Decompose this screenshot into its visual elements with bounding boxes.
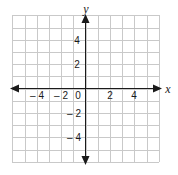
x-axis-right-arrow-icon xyxy=(153,85,162,93)
x-tick-label-4: 4 xyxy=(131,90,137,101)
x-tick-label-neg4: – 4 xyxy=(30,90,44,101)
y-tick-label-2: 2 xyxy=(74,59,80,70)
y-tick-label-4: 4 xyxy=(74,35,80,46)
y-axis-label: y xyxy=(82,2,89,16)
coordinate-plane-figure: x y 0 – 4 – 2 2 4 4 2 – 2 – 4 xyxy=(0,0,178,175)
x-tick-label-2: 2 xyxy=(107,90,113,101)
x-tick-label-neg2: – 2 xyxy=(54,90,68,101)
x-axis-left-arrow-icon xyxy=(10,85,19,93)
origin-tick-label: 0 xyxy=(75,90,81,101)
x-axis-label: x xyxy=(164,82,171,96)
y-tick-label-neg4: – 4 xyxy=(67,132,81,143)
y-tick-label-neg2: – 2 xyxy=(67,108,81,119)
y-axis-down-arrow-icon xyxy=(82,156,90,165)
coordinate-plane-svg: x y 0 – 4 – 2 2 4 4 2 – 2 – 4 xyxy=(0,0,178,175)
